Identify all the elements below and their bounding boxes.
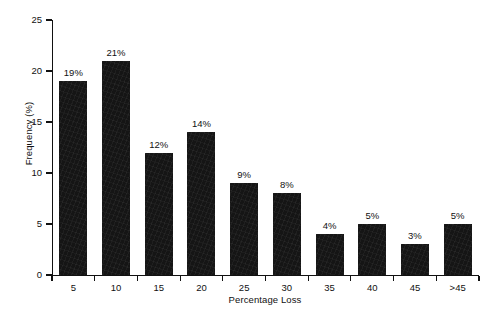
x-tick-label-35: 35 — [308, 283, 352, 293]
bar-value-label-25: 9% — [222, 170, 266, 180]
bar-chart: Frequency (%) 0510152025 510152025303540… — [0, 0, 489, 319]
x-tick-7 — [350, 276, 351, 281]
y-tick-label-10: 10 — [14, 168, 42, 178]
y-tick-label-5: 5 — [14, 219, 42, 229]
x-tick-label-45: 45 — [393, 283, 437, 293]
x-tick-label-20: 20 — [179, 283, 223, 293]
x-tick-label-5: 5 — [51, 283, 95, 293]
y-tick-label-0: 0 — [14, 270, 42, 280]
x-tick-label->45: >45 — [436, 283, 480, 293]
bar-30 — [273, 193, 301, 275]
bar-value-label-45: 3% — [393, 231, 437, 241]
x-tick-10 — [478, 276, 479, 281]
bar-10 — [102, 61, 130, 275]
bar-5 — [59, 81, 87, 275]
y-tick-label-20: 20 — [14, 66, 42, 76]
y-tick-15 — [46, 121, 52, 122]
bar->45 — [444, 224, 472, 275]
x-tick-0 — [51, 276, 52, 281]
y-tick-10 — [46, 172, 52, 173]
x-tick-8 — [393, 276, 394, 281]
x-tick-2 — [137, 276, 138, 281]
x-tick-label-10: 10 — [94, 283, 138, 293]
bar-value-label-10: 21% — [94, 48, 138, 58]
bar-45 — [401, 244, 429, 275]
bar-35 — [316, 234, 344, 275]
x-tick-4 — [222, 276, 223, 281]
x-axis-title: Percentage Loss — [52, 294, 478, 305]
x-tick-label-40: 40 — [350, 283, 394, 293]
bar-value-label-35: 4% — [308, 221, 352, 231]
bar-value-label-15: 12% — [137, 140, 181, 150]
x-tick-9 — [436, 276, 437, 281]
y-tick-25 — [46, 19, 52, 20]
bar-value-label-5: 19% — [51, 68, 95, 78]
x-tick-3 — [180, 276, 181, 281]
y-tick-5 — [46, 223, 52, 224]
x-tick-5 — [265, 276, 266, 281]
bar-40 — [358, 224, 386, 275]
bar-value-label->45: 5% — [436, 211, 480, 221]
y-tick-label-15: 15 — [14, 117, 42, 127]
x-tick-label-30: 30 — [265, 283, 309, 293]
y-axis-line — [52, 20, 53, 276]
bar-value-label-40: 5% — [350, 211, 394, 221]
x-tick-6 — [308, 276, 309, 281]
bar-value-label-20: 14% — [179, 119, 223, 129]
bar-15 — [145, 153, 173, 275]
x-tick-label-25: 25 — [222, 283, 266, 293]
bar-20 — [187, 132, 215, 275]
x-tick-1 — [94, 276, 95, 281]
bar-25 — [230, 183, 258, 275]
x-tick-label-15: 15 — [137, 283, 181, 293]
bar-value-label-30: 8% — [265, 180, 309, 190]
y-tick-label-25: 25 — [14, 15, 42, 25]
